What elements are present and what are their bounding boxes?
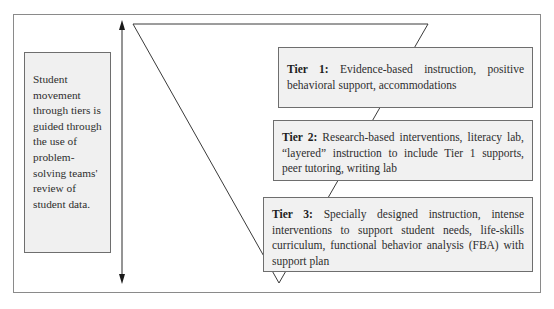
side-note-text: Student movement through tiers is guided… (33, 73, 102, 210)
tier-2-label: Tier 2: (282, 131, 317, 143)
tier-2-description: Research-based interventions, literacy l… (282, 131, 524, 174)
side-note-box: Student movement through tiers is guided… (24, 52, 111, 253)
tier-1-label: Tier 1: (287, 63, 329, 75)
tier-1-box: Tier 1: Evidence-based instruction, posi… (278, 47, 533, 108)
tier-2-box: Tier 2: Research-based interventions, li… (273, 120, 533, 181)
bidirectional-arrow-icon (119, 20, 125, 284)
tier-3-label: Tier 3: (272, 208, 313, 220)
tier-3-box: Tier 3: Specially designed instruction, … (263, 197, 533, 272)
